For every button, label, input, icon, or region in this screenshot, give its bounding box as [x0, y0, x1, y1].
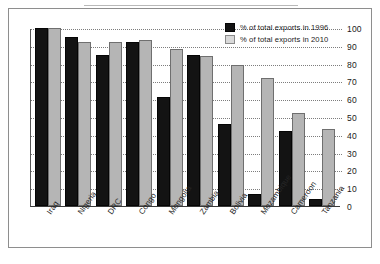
bar	[139, 40, 152, 206]
x-axis-label-slot: Mozambique	[248, 207, 276, 263]
bar	[48, 28, 61, 206]
x-axis-label-slot: Mongolia	[156, 207, 184, 263]
bar-groups	[31, 29, 340, 206]
bar	[109, 42, 122, 206]
bar	[126, 42, 139, 206]
bar	[78, 42, 91, 206]
y-axis-tick-label: 0	[347, 203, 380, 212]
legend-item-label: % of total exports in 2010	[240, 35, 328, 44]
y-axis-tick-labels: 1009080706050403020100	[340, 29, 380, 207]
y-axis-tick-label: 90	[347, 43, 380, 52]
bar-group	[218, 29, 246, 206]
x-axis-label-slot: Nigeria	[65, 207, 93, 263]
y-axis-tick-label: 20	[347, 167, 380, 176]
x-axis-label-slot: Tanzania	[309, 207, 337, 263]
bar	[96, 55, 109, 206]
bar-group	[65, 29, 93, 206]
bar	[261, 78, 274, 206]
x-axis-category-labels: IraqNigeriaDRCCongoMongoliaZambiaBolivia…	[30, 207, 340, 263]
x-axis-label-slot: Bolivia	[217, 207, 245, 263]
legend-item-label: % of total exports in 1996	[240, 23, 328, 32]
y-axis-tick-label: 60	[347, 96, 380, 105]
figure-border: 1009080706050403020100 IraqNigeriaDRCCon…	[8, 8, 372, 248]
y-axis-tick-label: 10	[347, 185, 380, 194]
bar-group	[187, 29, 215, 206]
y-axis-tick-label: 100	[347, 25, 380, 34]
x-axis-label-slot: Congo	[126, 207, 154, 263]
bar-group	[126, 29, 154, 206]
bar-group	[35, 29, 63, 206]
gray-square-icon	[225, 35, 235, 44]
bar	[200, 56, 213, 206]
x-axis-label-slot: Zambia	[187, 207, 215, 263]
bar	[65, 37, 78, 206]
bar	[157, 97, 170, 206]
x-axis-label-slot: Iraq	[34, 207, 62, 263]
bar	[231, 65, 244, 206]
bar-group	[157, 29, 185, 206]
bar	[248, 194, 261, 206]
black-square-icon	[225, 23, 235, 32]
bar	[35, 28, 48, 206]
legend-item-1996: % of total exports in 1996	[225, 23, 345, 32]
bar-group	[309, 29, 337, 206]
y-axis-tick-label: 40	[347, 132, 380, 141]
x-axis-label-slot: DRC	[95, 207, 123, 263]
bar-group	[248, 29, 276, 206]
chart-figure: 1009080706050403020100 IraqNigeriaDRCCon…	[0, 0, 380, 264]
y-axis-tick-label: 30	[347, 149, 380, 158]
y-axis-tick-label: 80	[347, 60, 380, 69]
bar	[187, 55, 200, 206]
x-axis-label-slot: Cameroon	[278, 207, 306, 263]
legend-item-2010: % of total exports in 2010	[225, 35, 345, 44]
chart-legend: % of total exports in 1996 % of total ex…	[225, 23, 345, 47]
plot-area	[30, 29, 340, 207]
bar-group	[96, 29, 124, 206]
y-axis-tick-label: 50	[347, 114, 380, 123]
scan-artifact-line	[84, 5, 298, 6]
bar	[170, 49, 183, 206]
bar	[309, 199, 322, 206]
y-axis-tick-label: 70	[347, 78, 380, 87]
